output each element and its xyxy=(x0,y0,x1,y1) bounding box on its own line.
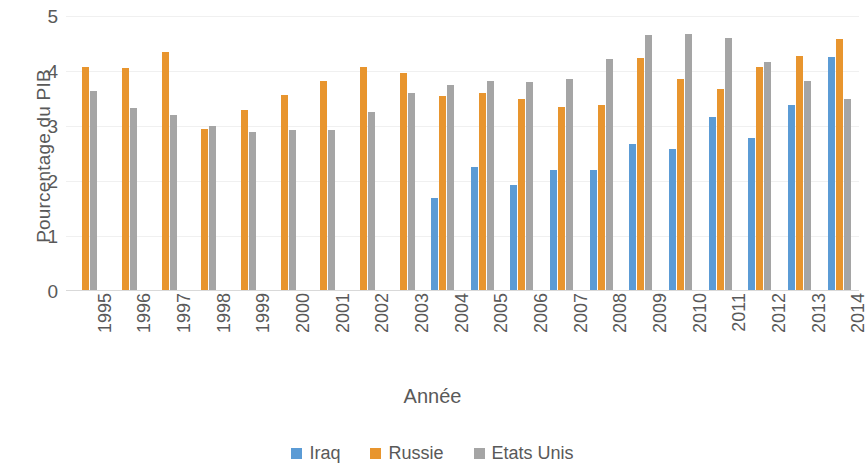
bar-group-1995 xyxy=(66,16,106,291)
x-axis-tick-1995: 1995 xyxy=(95,293,115,371)
bar-iraq-2005 xyxy=(471,167,478,291)
bar-etats-unis-2009 xyxy=(645,35,652,291)
bar-iraq-2004 xyxy=(431,198,438,292)
bar-etats-unis-1999 xyxy=(249,132,256,292)
bar-group-1998 xyxy=(185,16,225,291)
bar-russie-1998 xyxy=(201,129,208,291)
bar-etats-unis-1998 xyxy=(209,126,216,291)
bar-group-2002 xyxy=(344,16,384,291)
bar-group-2005 xyxy=(463,16,503,291)
plot-area xyxy=(66,16,859,291)
legend-label: Russie xyxy=(388,443,443,464)
bar-iraq-2010 xyxy=(669,149,676,291)
y-axis-tick-2: 2 xyxy=(47,172,58,191)
bar-iraq-2011 xyxy=(709,117,716,291)
x-axis-tick-2003: 2003 xyxy=(412,293,432,371)
bar-etats-unis-1996 xyxy=(130,108,137,291)
bar-group-1997 xyxy=(145,16,185,291)
bar-etats-unis-2002 xyxy=(368,112,375,291)
bar-iraq-2009 xyxy=(629,144,636,291)
x-axis-tick-2001: 2001 xyxy=(333,293,353,371)
bar-etats-unis-1995 xyxy=(90,91,97,291)
bar-etats-unis-1997 xyxy=(170,115,177,291)
bar-group-2008 xyxy=(581,16,621,291)
bar-etats-unis-2001 xyxy=(328,130,335,291)
bar-group-2012 xyxy=(740,16,780,291)
x-axis-tick-2013: 2013 xyxy=(809,293,829,371)
x-axis-tick-1996: 1996 xyxy=(134,293,154,371)
y-axis-tick-5: 5 xyxy=(47,7,58,26)
legend-label: Etats Unis xyxy=(492,443,574,464)
legend-label: Iraq xyxy=(309,443,340,464)
bar-russie-2005 xyxy=(479,93,486,291)
x-axis-tick-labels: 1995199619971998199920002001200220032004… xyxy=(66,293,859,371)
bar-russie-2014 xyxy=(836,39,843,291)
bar-group-2003 xyxy=(383,16,423,291)
bar-russie-2000 xyxy=(281,95,288,291)
bar-russie-2011 xyxy=(717,89,724,291)
bar-russie-2003 xyxy=(400,73,407,291)
x-axis-tick-2012: 2012 xyxy=(769,293,789,371)
x-axis-tick-1998: 1998 xyxy=(214,293,234,371)
y-axis-tick-1: 1 xyxy=(47,227,58,246)
x-axis-tick-2006: 2006 xyxy=(531,293,551,371)
bar-etats-unis-2005 xyxy=(487,81,494,291)
bar-group-2001 xyxy=(304,16,344,291)
bar-etats-unis-2013 xyxy=(804,81,811,291)
legend-swatch-icon xyxy=(370,448,381,459)
bar-etats-unis-2012 xyxy=(764,62,771,291)
bar-russie-1995 xyxy=(82,67,89,291)
y-axis-tick-labels: 012345 xyxy=(28,0,58,305)
bar-russie-2006 xyxy=(518,99,525,292)
bar-group-2010 xyxy=(661,16,701,291)
bar-group-2004 xyxy=(423,16,463,291)
bar-russie-2013 xyxy=(796,56,803,291)
bar-russie-2010 xyxy=(677,79,684,291)
bar-iraq-2006 xyxy=(510,185,517,291)
x-axis-tick-1997: 1997 xyxy=(174,293,194,371)
x-axis-tick-2005: 2005 xyxy=(491,293,511,371)
bar-iraq-2007 xyxy=(550,170,557,291)
x-axis-tick-2010: 2010 xyxy=(690,293,710,371)
x-axis-tick-2002: 2002 xyxy=(372,293,392,371)
bar-etats-unis-2011 xyxy=(725,38,732,291)
legend-item-etats-unis[interactable]: Etats Unis xyxy=(474,443,574,464)
bar-iraq-2008 xyxy=(590,170,597,291)
bar-russie-1996 xyxy=(122,68,129,291)
bar-iraq-2013 xyxy=(788,105,795,291)
bar-russie-2004 xyxy=(439,96,446,291)
bar-etats-unis-2004 xyxy=(447,85,454,291)
bar-group-1996 xyxy=(106,16,146,291)
bar-iraq-2012 xyxy=(748,138,755,291)
bar-russie-1997 xyxy=(162,52,169,291)
x-axis-tick-2008: 2008 xyxy=(610,293,630,371)
bar-etats-unis-2014 xyxy=(844,99,851,292)
bar-group-2000 xyxy=(264,16,304,291)
legend-item-russie[interactable]: Russie xyxy=(370,443,443,464)
x-axis-tick-2011: 2011 xyxy=(729,293,749,371)
y-axis-tick-0: 0 xyxy=(47,282,58,301)
x-axis-tick-2000: 2000 xyxy=(293,293,313,371)
bar-iraq-2014 xyxy=(828,57,835,291)
bar-etats-unis-2006 xyxy=(526,82,533,291)
bar-russie-2008 xyxy=(598,105,605,291)
bar-group-2011 xyxy=(700,16,740,291)
x-axis-tick-2007: 2007 xyxy=(571,293,591,371)
bar-russie-2001 xyxy=(320,81,327,291)
bar-group-1999 xyxy=(225,16,265,291)
bar-group-2006 xyxy=(502,16,542,291)
legend-item-iraq[interactable]: Iraq xyxy=(291,443,340,464)
bar-group-2009 xyxy=(621,16,661,291)
y-axis-tick-3: 3 xyxy=(47,117,58,136)
bar-etats-unis-2008 xyxy=(606,59,613,291)
bar-russie-1999 xyxy=(241,110,248,292)
x-axis-tick-1999: 1999 xyxy=(253,293,273,371)
bar-etats-unis-2010 xyxy=(685,34,692,291)
x-axis-line xyxy=(66,290,859,291)
bar-group-2013 xyxy=(780,16,820,291)
x-axis-tick-2009: 2009 xyxy=(650,293,670,371)
bar-russie-2009 xyxy=(637,58,644,291)
bar-group-2007 xyxy=(542,16,582,291)
x-axis-tick-2004: 2004 xyxy=(452,293,472,371)
bar-russie-2007 xyxy=(558,107,565,291)
